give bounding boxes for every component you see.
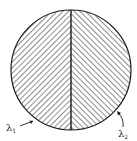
lambda1-subscript: 1	[12, 127, 16, 134]
svg-text:λ2: λ2	[118, 128, 128, 140]
lambda2-subscript: 2	[124, 133, 128, 140]
lambda2-annotation: λ2	[117, 111, 128, 140]
split-circle-diagram: λ1 λ2	[0, 0, 137, 141]
lambda1-annotation: λ1	[6, 121, 33, 135]
svg-text:λ1: λ1	[6, 122, 16, 134]
